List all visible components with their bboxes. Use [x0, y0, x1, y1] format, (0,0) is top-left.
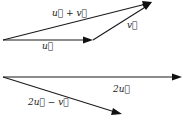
top-diagram: u⃗ + v⃗ u⃗ v⃗: [3, 1, 152, 51]
label-u-plus-v: u⃗ + v⃗: [52, 8, 87, 18]
arrowhead-2u: [172, 74, 182, 81]
label-u: u⃗: [42, 41, 53, 51]
diagram-svg: u⃗ + v⃗ u⃗ v⃗ 2u⃗ 2u⃗ − v⃗: [0, 0, 183, 130]
bottom-diagram: 2u⃗ 2u⃗ − v⃗: [3, 74, 182, 116]
label-v: v⃗: [127, 20, 138, 30]
arrowhead-2u-minus-v: [111, 108, 122, 115]
label-2u-minus-v: 2u⃗ − v⃗: [27, 97, 69, 107]
vector-diagram: u⃗ + v⃗ u⃗ v⃗ 2u⃗ 2u⃗ − v⃗: [0, 0, 183, 130]
arrowhead-u: [83, 37, 93, 44]
label-2u: 2u⃗: [112, 84, 130, 94]
